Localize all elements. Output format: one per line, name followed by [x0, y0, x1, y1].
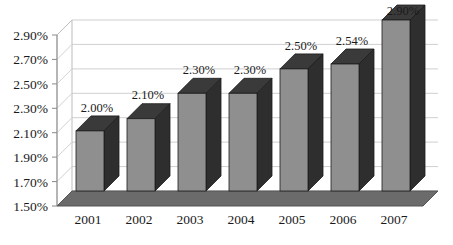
value-label: 2.90% [387, 4, 419, 18]
x-tick-label: 2002 [126, 212, 153, 227]
x-tick-label: 2007 [381, 212, 408, 227]
value-label: 2.54% [336, 34, 368, 48]
bar-chart-figure: 2.90% 2.70% 2.50% 2.30% 2.10% 1.90% 1.70… [0, 0, 453, 245]
y-tick-label: 1.90% [13, 150, 48, 165]
bar-front-face [76, 131, 104, 191]
x-tick-label: 2004 [228, 212, 255, 227]
bar-group-2002 [127, 104, 170, 191]
x-tick-label: 2001 [75, 212, 102, 227]
bar-group-2006 [331, 49, 374, 191]
bar-front-face [280, 69, 308, 191]
y-axis-tick-labels: 2.90% 2.70% 2.50% 2.30% 2.10% 1.90% 1.70… [13, 28, 48, 214]
value-label: 2.00% [81, 101, 113, 115]
bar-group-2005 [280, 54, 323, 191]
y-tick-label: 2.30% [13, 101, 48, 116]
bar-group-2003 [178, 78, 221, 191]
x-tick-label: 2005 [279, 212, 306, 227]
bar-front-face [382, 20, 410, 191]
y-tick-label: 2.70% [13, 52, 48, 67]
bar-side-face [359, 49, 374, 191]
bar-side-face [308, 54, 323, 191]
chart-floor [57, 191, 438, 206]
bar-front-face [331, 64, 359, 191]
bar-side-face [257, 78, 272, 191]
y-tick-label: 2.90% [13, 28, 48, 43]
x-tick-label: 2003 [177, 212, 204, 227]
bar-front-face [178, 93, 206, 191]
bar-group-2001 [76, 116, 119, 191]
bar-group-2007 [382, 5, 425, 191]
bar-front-face [127, 119, 155, 191]
bar-side-face [410, 5, 425, 191]
x-axis-category-labels: 2001 2002 2003 2004 2005 2006 2007 [75, 212, 408, 227]
chart-canvas: 2.90% 2.70% 2.50% 2.30% 2.10% 1.90% 1.70… [0, 0, 453, 245]
bar-group-2004 [229, 78, 272, 191]
left-side-wall [57, 20, 72, 206]
y-tick-label: 2.50% [13, 77, 48, 92]
x-tick-label: 2006 [330, 212, 357, 227]
bar-front-face [229, 93, 257, 191]
value-label: 2.30% [183, 63, 215, 77]
y-tick-label: 2.10% [13, 126, 48, 141]
value-label: 2.50% [285, 39, 317, 53]
value-label: 2.10% [132, 88, 164, 102]
y-tick-label: 1.70% [13, 175, 48, 190]
bar-side-face [206, 78, 221, 191]
y-tick-label: 1.50% [13, 199, 48, 214]
bar-side-face [155, 104, 170, 191]
value-label: 2.30% [234, 63, 266, 77]
y-axis-ticks [52, 35, 57, 206]
